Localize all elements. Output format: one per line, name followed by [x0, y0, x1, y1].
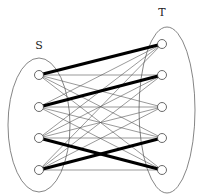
node-s4 [35, 166, 44, 175]
set-t-ellipse [139, 27, 195, 193]
edge-s2-t1 [39, 44, 162, 107]
node-t4 [158, 134, 167, 143]
node-s3 [35, 134, 44, 143]
set-t-label: T [158, 6, 166, 19]
node-t5 [158, 166, 167, 175]
set-s-label: S [35, 39, 43, 52]
node-t3 [158, 103, 167, 112]
node-s2 [35, 103, 44, 112]
node-t2 [158, 71, 167, 80]
bipartite-graph-diagram: ST [0, 0, 202, 195]
node-t1 [158, 40, 167, 49]
thin-edges [39, 44, 162, 170]
matching-edge-s1-t1 [39, 44, 162, 75]
node-s1 [35, 71, 44, 80]
set-labels: ST [35, 6, 166, 52]
